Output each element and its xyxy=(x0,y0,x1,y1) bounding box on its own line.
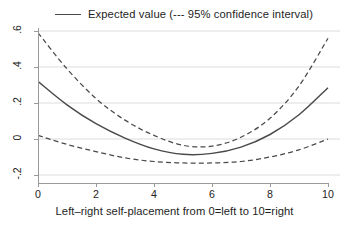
x-tick-mark xyxy=(328,183,329,187)
x-tick-mark xyxy=(270,183,271,187)
x-tick-mark xyxy=(154,183,155,187)
x-axis-title: Left–right self-placement from 0=left to… xyxy=(0,205,349,217)
expected-value-curve xyxy=(38,81,328,154)
x-tick-label: 4 xyxy=(139,188,169,200)
y-tick-label: .2 xyxy=(12,89,23,115)
y-tick-label: .6 xyxy=(12,17,23,43)
plot-canvas xyxy=(38,28,340,178)
x-axis-line xyxy=(38,183,329,184)
x-tick-label: 10 xyxy=(313,188,343,200)
x-tick-label: 0 xyxy=(23,188,53,200)
x-tick-label: 6 xyxy=(197,188,227,200)
legend-label: Expected value (--- 95% confidence inter… xyxy=(88,8,313,20)
y-axis-line xyxy=(38,28,39,183)
data-curves xyxy=(38,33,328,163)
y-tick-mark xyxy=(34,67,38,68)
y-tick-mark xyxy=(34,103,38,104)
confidence-interval-curve xyxy=(38,135,328,163)
y-tick-label: .4 xyxy=(12,53,23,79)
y-tick-mark xyxy=(34,175,38,176)
plot-area xyxy=(38,28,340,178)
x-tick-mark xyxy=(96,183,97,187)
chart-figure: Expected value (--- 95% confidence inter… xyxy=(0,0,349,229)
x-tick-label: 2 xyxy=(81,188,111,200)
x-tick-mark xyxy=(38,183,39,187)
x-tick-mark xyxy=(212,183,213,187)
y-tick-label: 0 xyxy=(12,125,23,151)
confidence-interval-curve xyxy=(38,33,328,147)
y-tick-label: -.2 xyxy=(12,161,23,187)
y-tick-mark xyxy=(34,31,38,32)
chart-legend: Expected value (--- 95% confidence inter… xyxy=(55,3,313,25)
x-tick-label: 8 xyxy=(255,188,285,200)
y-tick-mark xyxy=(34,139,38,140)
legend-line-swatch-icon xyxy=(55,14,81,15)
gridlines xyxy=(38,31,340,175)
